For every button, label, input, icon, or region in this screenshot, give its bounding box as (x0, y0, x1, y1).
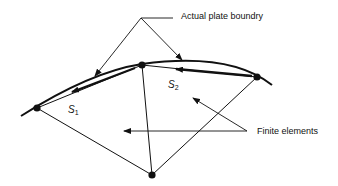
node-bottom (148, 171, 155, 178)
boundary-label: Actual plate boundry (181, 11, 264, 21)
node-right (253, 73, 260, 80)
plate-boundary-diagram: Actual plate boundry Finite elements S1 … (0, 0, 338, 186)
s2-arrow (176, 69, 252, 76)
s1-arrow (72, 68, 135, 92)
finite-element-edges (37, 65, 257, 175)
s2-label: S2 (168, 79, 179, 91)
node-left (33, 104, 40, 111)
node-top (138, 61, 145, 68)
boundary-leaders (95, 18, 182, 76)
elements-label: Finite elements (257, 126, 319, 136)
s1-label: S1 (68, 104, 79, 116)
actual-boundary-curve (21, 61, 272, 116)
